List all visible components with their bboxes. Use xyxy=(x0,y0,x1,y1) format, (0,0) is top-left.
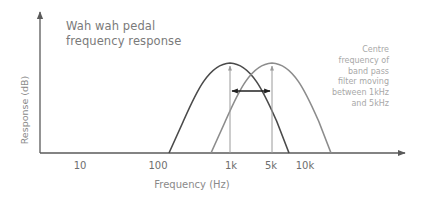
x-axis-label: Frequency (Hz) xyxy=(154,179,229,190)
x-tick-1k: 1k xyxy=(225,160,237,171)
diagram-title: Wah wah pedal frequency response xyxy=(66,19,181,49)
x-tick-10k: 10k xyxy=(296,160,315,171)
y-axis-label: Response (dB) xyxy=(19,76,30,145)
x-tick-100: 100 xyxy=(148,160,167,171)
centre-frequency-annotation: Centre frequency of band pass filter mov… xyxy=(289,45,389,110)
x-tick-5k: 5k xyxy=(265,160,277,171)
curve-1khz xyxy=(169,63,289,153)
x-tick-10: 10 xyxy=(74,160,87,171)
